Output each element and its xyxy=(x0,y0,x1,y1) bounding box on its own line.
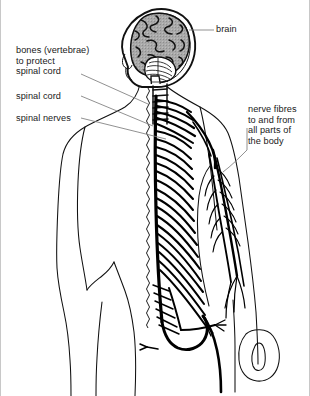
label-spinal-nerves: spinal nerves xyxy=(16,113,71,124)
label-spinal-cord: spinal cord xyxy=(16,91,61,102)
leader-line-spinal-cord xyxy=(81,96,153,126)
label-vertebrae: bones (vertebrae) to protect spinal cord xyxy=(16,45,89,77)
leader-line-nerve-fibres-tail xyxy=(223,150,247,172)
body-outline xyxy=(57,84,280,396)
nervous-system-figure: brain bones (vertebrae) to protect spina… xyxy=(0,0,310,396)
cauda-equina xyxy=(140,316,226,392)
label-nerve-fibres: nerve fibres to and from all parts of th… xyxy=(248,104,297,146)
spinal-nerves xyxy=(153,100,215,334)
label-brain: brain xyxy=(216,24,237,35)
